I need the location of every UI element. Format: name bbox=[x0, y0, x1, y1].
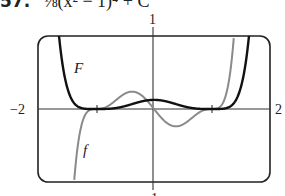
curve-F bbox=[59, 36, 249, 109]
function-plot: 1 −1 −2 2 F f bbox=[0, 0, 285, 196]
x-max-label: 2 bbox=[275, 102, 282, 117]
label-f: f bbox=[83, 142, 89, 158]
label-F: F bbox=[73, 60, 84, 76]
x-min-label: −2 bbox=[10, 102, 25, 117]
y-min-label: −1 bbox=[143, 191, 158, 196]
y-max-label: 1 bbox=[149, 12, 156, 27]
